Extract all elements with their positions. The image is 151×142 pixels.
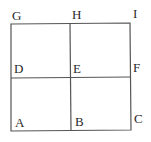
point-label-d: D [14,62,23,75]
point-label-c: C [134,112,143,125]
point-label-a: A [15,116,24,129]
point-label-b: B [75,115,84,128]
point-label-f: F [133,61,140,74]
point-label-g: G [12,9,21,22]
point-label-h: H [72,8,81,21]
grid-diagram: G H I D E F A B C [0,0,151,142]
point-label-e: E [73,62,81,75]
point-label-i: I [133,7,137,20]
line-DF [11,77,131,78]
